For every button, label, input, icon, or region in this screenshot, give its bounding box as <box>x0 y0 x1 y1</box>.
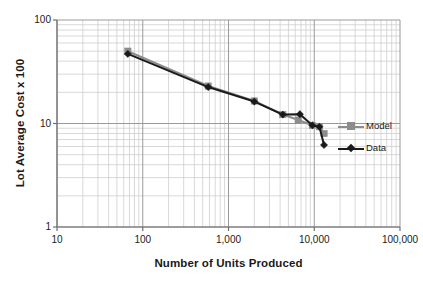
x-axis-title: Number of Units Produced <box>57 256 400 270</box>
x-tick-label: 1,000 <box>199 234 259 246</box>
x-tick-label: 100,000 <box>370 234 423 246</box>
legend-label-data: Data <box>366 140 386 156</box>
y-tick-label: 1 <box>11 221 51 233</box>
diamond-marker-icon <box>347 144 355 152</box>
data-point-marker <box>295 117 301 123</box>
square-marker-icon <box>347 122 355 130</box>
chart-legend: Model Data <box>336 118 406 160</box>
x-tick-label: 100 <box>113 234 173 246</box>
legend-item-data[interactable]: Data <box>336 140 406 156</box>
legend-item-model[interactable]: Model <box>336 118 406 134</box>
y-tick-label: 100 <box>11 14 51 26</box>
x-tick-label: 10,000 <box>284 234 344 246</box>
y-tick-label: 10 <box>11 118 51 130</box>
x-tick-label: 10 <box>27 234 87 246</box>
legend-label-model: Model <box>366 118 392 134</box>
